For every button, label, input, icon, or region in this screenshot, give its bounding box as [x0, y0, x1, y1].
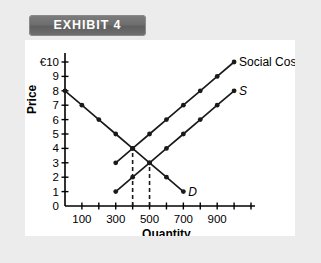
exhibit-banner: EXHIBIT 4 — [29, 15, 146, 36]
y-axis-title: Price — [25, 84, 39, 114]
datapoint-d-0 — [63, 88, 68, 93]
y-tick-label-10: €10 — [40, 56, 59, 68]
y-tick-label-4: 4 — [53, 142, 60, 154]
datapoint-social-cost-1000 — [232, 60, 237, 65]
x-tick-label-300: 300 — [106, 213, 125, 225]
datapoint-social-cost-300 — [113, 160, 118, 165]
y-tick-label-0: 0 — [53, 200, 59, 212]
datapoint-social-cost-400 — [130, 146, 135, 151]
datapoint-d-200 — [96, 117, 101, 122]
y-tick-label-5: 5 — [53, 128, 59, 140]
curve-label-d: D — [188, 185, 197, 199]
datapoint-social-cost-800 — [198, 88, 203, 93]
x-axis-title: Quantity — [142, 227, 191, 236]
datapoint-s-700 — [181, 132, 186, 137]
supply-demand-chart: 0123456789€10100300500700900QuantityPric… — [25, 40, 295, 236]
datapoint-d-600 — [164, 175, 169, 180]
x-tick-label-100: 100 — [72, 213, 91, 225]
y-tick-label-9: 9 — [53, 70, 59, 82]
datapoint-s-300 — [113, 189, 118, 194]
datapoint-social-cost-700 — [181, 103, 186, 108]
exhibit-banner-label: EXHIBIT 4 — [29, 15, 146, 36]
curve-label-social-cost: Social Cost — [239, 55, 295, 69]
y-tick-label-2: 2 — [53, 171, 59, 183]
y-tick-label-7: 7 — [53, 99, 59, 111]
datapoint-s-1000 — [232, 88, 237, 93]
datapoint-d-300 — [113, 132, 118, 137]
datapoint-social-cost-900 — [215, 74, 220, 79]
datapoint-s-900 — [215, 103, 220, 108]
x-tick-label-700: 700 — [174, 213, 193, 225]
datapoint-d-700 — [181, 189, 186, 194]
chart-panel: 0123456789€10100300500700900QuantityPric… — [25, 40, 295, 236]
curve-label-s: S — [239, 84, 247, 98]
datapoint-s-600 — [164, 146, 169, 151]
y-tick-label-1: 1 — [53, 186, 59, 198]
x-tick-label-900: 900 — [208, 213, 227, 225]
y-tick-label-6: 6 — [53, 114, 59, 126]
y-tick-label-8: 8 — [53, 85, 59, 97]
datapoint-social-cost-500 — [147, 132, 152, 137]
datapoint-s-800 — [198, 117, 203, 122]
y-tick-label-3: 3 — [53, 157, 59, 169]
datapoint-d-100 — [80, 103, 85, 108]
datapoint-social-cost-600 — [164, 117, 169, 122]
x-tick-label-500: 500 — [140, 213, 159, 225]
